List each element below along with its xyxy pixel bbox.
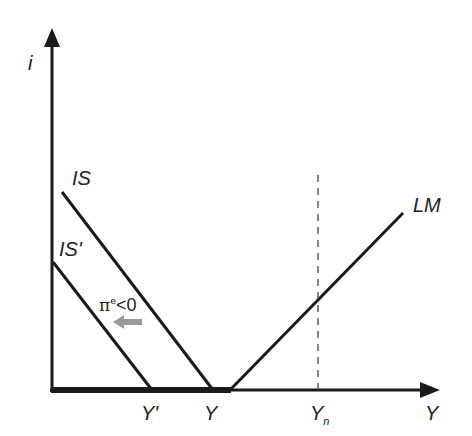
y-axis-arrow-icon <box>44 28 60 47</box>
lm-label: LM <box>413 194 441 216</box>
is-lm-diagram: i Y IS IS' LM πe<0 Y' Y Yn <box>0 0 472 436</box>
x-axis-label: Y <box>425 402 440 424</box>
y-tick-label: Y <box>204 402 219 424</box>
zlb-flat-segment <box>51 387 231 393</box>
y-axis-label: i <box>28 52 33 74</box>
x-axis-arrow-icon <box>420 382 440 398</box>
y-prime-tick-label: Y' <box>141 402 159 424</box>
is-prime-curve <box>53 262 152 390</box>
is-prime-label: IS' <box>59 238 83 260</box>
is-label: IS <box>72 167 92 189</box>
lm-curve <box>230 213 403 390</box>
yn-tick-label: Yn <box>310 402 329 427</box>
is-curve <box>62 192 213 390</box>
expectation-label: πe<0 <box>99 295 137 315</box>
shift-left-arrow-icon <box>113 315 142 329</box>
